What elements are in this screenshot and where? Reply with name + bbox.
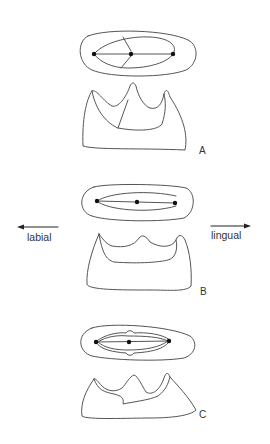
- panel-b-occlusal-view: [82, 184, 194, 220]
- cusp-point: [92, 52, 96, 56]
- cusp-point: [173, 201, 177, 205]
- cusp-point: [167, 339, 171, 343]
- cusp-point: [94, 340, 98, 344]
- lingual-label: lingual: [211, 230, 241, 241]
- lingual-arrow: [211, 224, 251, 229]
- cusp-point: [129, 52, 133, 56]
- panel-b-lateral-view: [87, 234, 191, 290]
- labial-label: labial: [27, 232, 52, 243]
- panel-label-c: C: [199, 410, 206, 420]
- panel-c-lateral-view: [82, 373, 196, 418]
- panel-c-occlusal-view: [81, 325, 195, 360]
- panel-label-b: B: [200, 287, 207, 297]
- cusp-point: [127, 340, 131, 344]
- cusp-point: [95, 199, 99, 203]
- panel-label-a: A: [199, 146, 206, 156]
- labial-arrow: [17, 225, 58, 230]
- panel-a-lateral-view: [83, 83, 186, 150]
- panel-a-occlusal-view: [80, 31, 196, 76]
- cusp-point: [171, 52, 175, 56]
- cusp-point: [135, 200, 139, 204]
- tooth-diagram: [0, 0, 270, 444]
